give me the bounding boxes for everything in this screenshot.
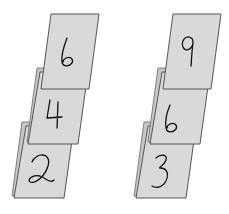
right-stack [134,14,221,198]
card-stacks-diagram [0,0,229,214]
left-stack [12,14,99,198]
card-left-top [41,14,99,89]
card-right-top [163,14,221,89]
